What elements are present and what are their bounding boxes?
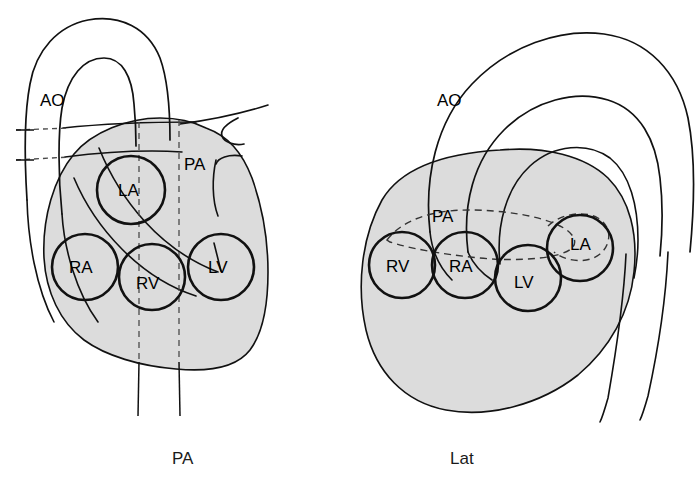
pa-view-caption: PA [172,449,194,468]
lat-vessel-label-pa: PA [432,207,454,226]
pa-chamber-label-lv: LV [208,258,228,277]
lat-view-panel: RV RA LV LA AO PA Lat [361,33,693,468]
pa-view-panel: LA RA RV LV AO PA PA [16,19,268,468]
pa-vessel-label-pa: PA [184,155,206,174]
lat-chamber-label-la: LA [570,235,591,254]
cardiac-diagram-figure: LA RA RV LV AO PA PA [0,0,699,482]
lat-view-caption: Lat [450,449,474,468]
lat-descending-aorta-right [640,252,668,420]
pa-chamber-label-rv: RV [136,274,160,293]
pa-chamber-label-ra: RA [69,258,93,277]
pa-descending-line-left [138,362,139,416]
pa-descending-line-right [179,362,180,416]
lat-chamber-label-lv: LV [514,273,534,292]
lat-chamber-label-rv: RV [386,257,410,276]
lat-heart-silhouette [361,149,635,412]
pa-upper-border-line [180,105,268,124]
pa-chamber-label-la: LA [118,181,139,200]
pa-vessel-label-ao: AO [40,91,65,110]
lat-vessel-label-ao: AO [437,91,462,110]
lat-chamber-label-ra: RA [449,257,473,276]
pa-branch-hook-upper [222,118,244,145]
diagram-canvas: LA RA RV LV AO PA PA [0,0,699,482]
